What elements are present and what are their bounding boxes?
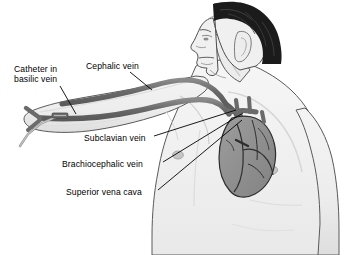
label-line-2: basilic vein <box>14 74 57 84</box>
anatomy-figure: Catheter inbasilic vein Cephalic vein Su… <box>0 0 345 255</box>
label-superior-vena-cava: Superior vena cava <box>66 187 142 197</box>
anatomy-illustration <box>0 0 345 255</box>
label-catheter-in-basilic-vein: Catheter inbasilic vein <box>14 64 57 84</box>
label-brachiocephalic-vein: Brachiocephalic vein <box>62 159 143 169</box>
catheter-hub <box>52 113 68 118</box>
label-cephalic-vein: Cephalic vein <box>86 61 139 71</box>
label-subclavian-vein: Subclavian vein <box>84 133 146 143</box>
pulmonary-vessel <box>262 112 264 122</box>
label-line-1: Catheter in <box>14 64 57 74</box>
brachiocephalic-branch-up-2 <box>249 98 250 112</box>
brachiocephalic-branch-up <box>236 100 238 114</box>
